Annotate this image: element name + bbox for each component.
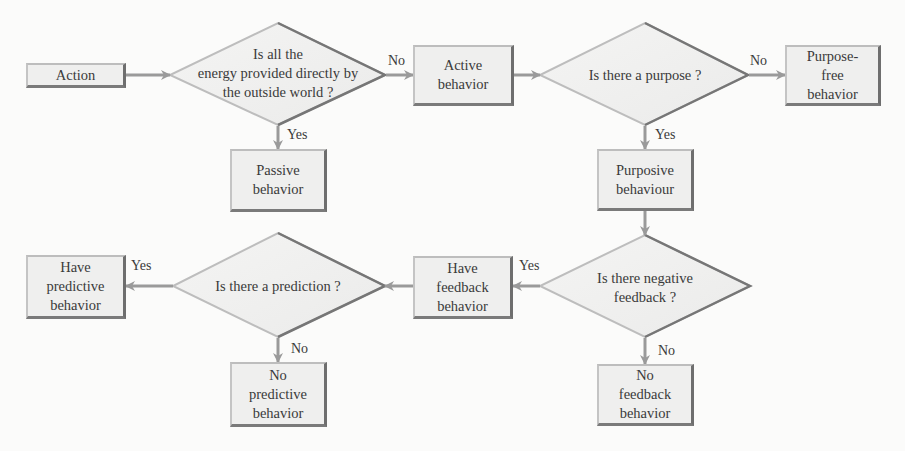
- edge-label-purpose-yes: Yes: [655, 127, 675, 143]
- edge-label-negfeedback-yes: Yes: [519, 258, 539, 274]
- node-have-feedback-behavior: Have feedback behavior: [413, 256, 513, 319]
- node-have-predictive-behavior: Have predictive behavior: [26, 255, 126, 319]
- node-active-behavior: Active behavior: [413, 45, 514, 106]
- node-action: Action: [26, 63, 126, 88]
- edge-label-energy-yes: Yes: [287, 127, 307, 143]
- edge-label-prediction-no: No: [291, 341, 308, 357]
- edge-label-energy-no: No: [388, 53, 405, 69]
- decision-negative-feedback-label: Is there negative feedback ?: [545, 269, 745, 307]
- decision-purpose-label: Is there a purpose ?: [545, 66, 745, 85]
- node-no-predictive-behavior: No predictive behavior: [230, 362, 327, 427]
- decision-energy-label: Is all the energy provided directly by t…: [178, 45, 378, 102]
- node-passive-behavior: Passive behavior: [230, 149, 327, 212]
- edge-label-negfeedback-no: No: [658, 343, 675, 359]
- decision-prediction-label: Is there a prediction ?: [178, 277, 378, 296]
- edge-label-prediction-yes: Yes: [131, 258, 151, 274]
- node-purpose-free-behavior: Purpose- free behavior: [785, 45, 881, 106]
- node-purposive-behaviour: Purposive behaviour: [597, 149, 694, 211]
- edge-label-purpose-no: No: [750, 53, 767, 69]
- node-no-feedback-behavior: No feedback behavior: [597, 364, 694, 426]
